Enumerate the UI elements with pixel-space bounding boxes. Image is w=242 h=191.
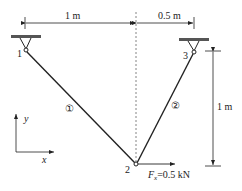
force-label: Fx=0.5 kN [147,169,190,182]
member-1-label: ① [65,103,74,114]
dimension-label-1m: 1 m [65,10,81,21]
dimension-label-vertical: 1 m [217,101,233,112]
node-1-label: 1 [17,48,22,59]
support-1-icon [11,35,41,52]
node-2-pin [134,162,138,166]
dimension-label-0-5m: 0.5 m [158,10,181,21]
member-2-label: ② [171,100,180,111]
node-3-label: 3 [183,50,188,61]
node-2-label: 2 [125,164,130,175]
member-1 [27,52,135,163]
y-axis-label: y [23,113,29,124]
member-2 [137,54,193,163]
x-axis-label: x [41,154,47,165]
truss-diagram: 1 m 0.5 m 1 3 ① ② 2 Fx=0.5 kN 1 m y x [0,0,242,191]
coordinate-axes-icon [16,114,54,152]
